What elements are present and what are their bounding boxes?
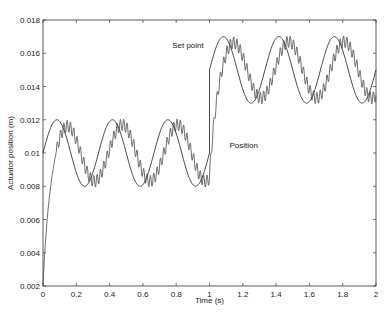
- y-tick-label: 0.018: [20, 16, 41, 25]
- x-tick-label: 1.8: [337, 290, 349, 299]
- x-tick-label: 2: [374, 290, 379, 299]
- x-tick-label: 1.2: [237, 290, 249, 299]
- x-tick-label: 0.6: [137, 290, 149, 299]
- x-tick-label: 1.4: [271, 290, 283, 299]
- y-tick-label: 0.012: [20, 116, 41, 125]
- y-tick-label: 0.008: [20, 182, 41, 191]
- annotation-position: Position: [229, 141, 257, 150]
- x-tick-label: 0.8: [171, 290, 183, 299]
- y-tick-label: 0.01: [24, 149, 40, 158]
- x-axis-label: Time (s): [195, 296, 224, 305]
- y-tick-label: 0.006: [20, 216, 41, 225]
- x-tick-label: 0.2: [71, 290, 83, 299]
- y-tick-label: 0.014: [20, 83, 41, 92]
- x-tick-label: 1.6: [304, 290, 316, 299]
- y-tick-label: 0.016: [20, 49, 41, 58]
- line-chart: 00.20.40.60.811.21.41.61.82 0.0020.0040.…: [0, 0, 392, 320]
- x-tick-label: 0.4: [104, 290, 116, 299]
- y-tick-label: 0.002: [20, 282, 41, 291]
- annotation-set-point: Set point: [172, 41, 204, 50]
- y-axis-label: Actuator position (m): [6, 116, 15, 190]
- x-tick-label: 0: [41, 290, 46, 299]
- y-tick-label: 0.004: [20, 249, 41, 258]
